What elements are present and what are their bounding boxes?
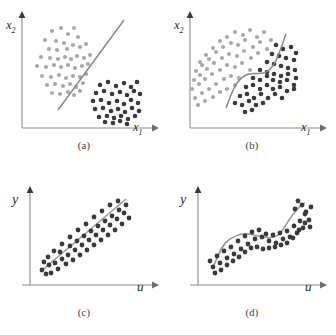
panel-b-caption: (b): [168, 140, 336, 151]
panel-c-axes: [22, 186, 159, 288]
panel-d-plot: y u: [168, 167, 336, 307]
panel-c-plot: y u: [0, 167, 168, 307]
panel-b-dark-points: [233, 43, 299, 115]
panel-d-xlabel: u: [305, 279, 312, 295]
panel-c-caption: (c): [0, 307, 168, 318]
panel-b: x2 x1 (b): [168, 0, 336, 167]
panel-c-points: [40, 199, 132, 277]
panel-c-xlabel: u: [137, 279, 144, 295]
panel-c-ylabel: y: [12, 192, 18, 208]
panel-a-axes: [19, 11, 159, 131]
panel-a-light-points: [35, 26, 92, 97]
panel-a-ylabel: x2: [6, 18, 16, 35]
panel-d: y u (d): [168, 167, 336, 334]
panel-c: y u (c): [0, 167, 168, 334]
panel-a-svg: [0, 0, 168, 140]
panel-b-plot: x2 x1: [168, 0, 336, 140]
panel-d-ylabel: y: [180, 192, 186, 208]
panel-b-xlabel: x1: [301, 120, 311, 137]
panel-d-axes: [190, 186, 327, 288]
panel-d-caption: (d): [168, 307, 336, 318]
panel-b-axes: [187, 11, 327, 131]
panel-a-caption: (a): [0, 140, 168, 151]
panel-b-svg: [168, 0, 336, 140]
panel-a-xlabel: x1: [133, 120, 143, 137]
panel-a-plot: x2 x1: [0, 0, 168, 140]
figure-container: x2 x1 (a): [0, 0, 336, 335]
panel-a: x2 x1 (a): [0, 0, 168, 167]
panel-b-ylabel: x2: [174, 18, 184, 35]
